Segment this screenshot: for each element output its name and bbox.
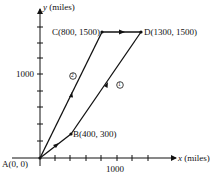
path-2-number: 2 <box>71 73 74 79</box>
arrow-c-d-icon <box>119 30 125 35</box>
point-b-label: B(400, 300) <box>73 130 117 139</box>
y-axis-label: y (miles) <box>43 3 75 12</box>
path-2 <box>40 32 141 158</box>
x-axis-unit: (miles) <box>184 153 210 163</box>
point-a <box>38 156 41 159</box>
x-axis-var: x <box>178 153 182 163</box>
point-d <box>139 30 142 33</box>
y-axis-var: y <box>43 2 47 12</box>
x-axis-label: x (miles) <box>178 154 210 163</box>
y-axis <box>37 9 43 166</box>
point-d-label: D(1300, 1500) <box>144 28 197 37</box>
y-axis-unit: (miles) <box>49 2 75 12</box>
x-axis <box>12 155 176 161</box>
point-c <box>100 30 103 33</box>
point-a-label: A(0, 0) <box>2 160 28 169</box>
path-1 <box>40 32 141 158</box>
y-tick-1000: 1000 <box>16 70 34 79</box>
point-c-label: C(800, 1500) <box>52 28 100 37</box>
points <box>38 30 142 159</box>
x-tick-1000: 1000 <box>106 165 124 174</box>
path-1-number: 1 <box>118 82 121 88</box>
